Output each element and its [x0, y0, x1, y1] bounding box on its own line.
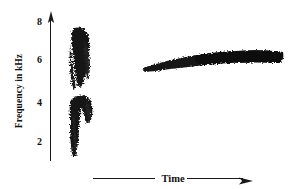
- plot-area: [0, 0, 300, 189]
- x-axis-line-left: [93, 178, 157, 179]
- spectrogram-figure: 8 6 4 2 Frequency in kHz: [0, 0, 300, 189]
- right-whistle-band: [0, 0, 300, 189]
- axis-arrow-right-icon: [239, 173, 253, 185]
- x-axis-label: Time: [155, 172, 191, 185]
- x-axis: Time: [93, 172, 255, 186]
- x-axis-line-right: [187, 178, 243, 179]
